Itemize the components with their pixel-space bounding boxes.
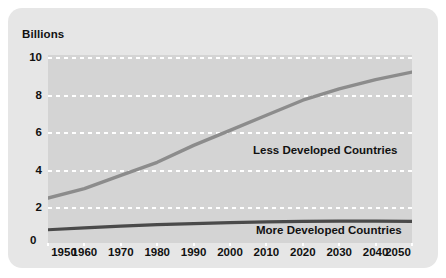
x-axis-labels: 1950196019701980199020002010202020302040…: [48, 246, 412, 262]
y-axis-title: Billions: [22, 28, 64, 40]
y-tick-10: 10: [16, 52, 42, 63]
chart-screenshot: Billions 10 8 6 4 2 0 Less Developed Cou…: [0, 0, 446, 278]
x-tick-2020: 2020: [290, 246, 316, 258]
x-tick-1980: 1980: [144, 246, 170, 258]
more-developed-label: More Developed Countries: [256, 224, 402, 236]
x-tick-2030: 2030: [326, 246, 352, 258]
x-tick-1970: 1970: [108, 246, 134, 258]
y-axis-labels: 10 8 6 4 2: [14, 55, 42, 243]
less-developed-label: Less Developed Countries: [253, 144, 397, 156]
x-tick-2000: 2000: [217, 246, 243, 258]
x-tick-2010: 2010: [254, 246, 280, 258]
y-tick-8: 8: [16, 90, 42, 101]
less-developed-line: [48, 72, 412, 198]
x-tick-2050: 2050: [385, 246, 411, 258]
y-tick-6: 6: [16, 127, 42, 138]
y-tick-0: 0: [30, 234, 36, 246]
x-tick-1960: 1960: [72, 246, 98, 258]
x-tick-mark-1950: [47, 243, 49, 246]
x-tick-1990: 1990: [181, 246, 207, 258]
x-tick-mark-2050: [411, 243, 413, 246]
y-tick-4: 4: [16, 165, 42, 176]
y-tick-2: 2: [16, 202, 42, 213]
